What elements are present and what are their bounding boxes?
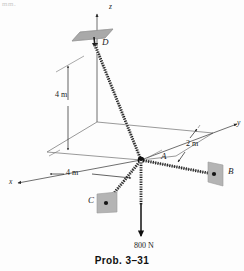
y-axis-label: y (237, 119, 240, 127)
figure-drawing-canvas (0, 0, 244, 271)
point-label-d: D (102, 38, 109, 47)
point-label-c: C (88, 196, 94, 205)
dimension-vertical-4m (49, 56, 84, 156)
cable-AB (141, 160, 213, 174)
dimension-label-2m: 2 m (186, 140, 198, 148)
force-magnitude-label: 800 N (134, 242, 154, 250)
dimension-label-vertical-4m: 4 m (55, 91, 67, 99)
problem-figure: mm. (0, 0, 244, 271)
label-A-leader (147, 150, 162, 158)
anchor-plate-B (208, 162, 223, 186)
dimension-label-horizontal-4m: 4 m (66, 169, 78, 177)
figure-caption: Prob. 3–31 (0, 255, 244, 266)
axis-lines (18, 14, 237, 183)
x-axis-label: x (9, 178, 12, 186)
anchor-plate-C (97, 192, 117, 213)
z-axis-label: z (109, 3, 112, 11)
point-label-a: A (161, 152, 167, 161)
point-label-b: B (228, 167, 234, 176)
x-axis-line (18, 160, 141, 183)
cable-AD (95, 45, 141, 160)
